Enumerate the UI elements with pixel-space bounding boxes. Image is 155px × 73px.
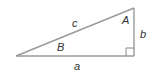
label-base: a	[74, 60, 80, 72]
label-angle-a: A	[121, 14, 129, 26]
hypotenuse-c	[16, 8, 134, 56]
right-triangle-diagram: c A b B a	[0, 0, 155, 73]
right-angle-marker-icon	[126, 48, 134, 56]
label-hypotenuse: c	[72, 17, 78, 29]
label-side-b: b	[140, 28, 146, 40]
label-angle-b: B	[57, 41, 64, 53]
